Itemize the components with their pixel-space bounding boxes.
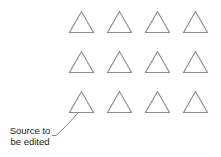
triangle-r1-c3 (146, 12, 170, 33)
triangle-r2-c1 (70, 52, 94, 73)
triangle-r2-c3 (146, 52, 170, 73)
triangle-r3-c3 (146, 92, 170, 113)
annotation-line-2: be edited (5, 136, 55, 147)
triangle-r1-c4 (184, 12, 208, 33)
annotation-label: Source to be edited (5, 125, 55, 147)
annotation-line-1: Source to (5, 125, 55, 136)
triangle-r3-c2 (108, 92, 132, 113)
triangle-r1-c2 (108, 12, 132, 33)
triangle-r2-c2 (108, 52, 132, 73)
triangle-r3-c4 (184, 92, 208, 113)
leader-line (52, 114, 78, 136)
triangle-r3-c1-source (70, 92, 94, 113)
triangle-r2-c4 (184, 52, 208, 73)
triangle-r1-c1 (70, 12, 94, 33)
